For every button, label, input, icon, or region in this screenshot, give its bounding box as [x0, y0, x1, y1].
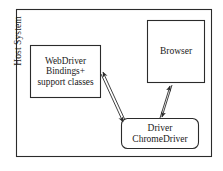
connector-webdriver-driver: [101, 72, 125, 122]
diagram-canvas: Host System WebDriver Bindings+ support …: [0, 0, 223, 171]
driver-chromedriver-box: [122, 119, 199, 149]
diagram-vector-layer: [0, 0, 223, 171]
connector-driver-browser: [160, 85, 172, 118]
browser-box: [148, 21, 205, 83]
webdriver-bindings-box: [31, 46, 101, 98]
